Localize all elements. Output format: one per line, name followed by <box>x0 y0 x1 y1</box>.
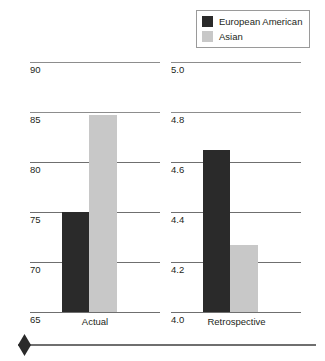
panel-retrospective: 5.0 4.8 4.6 4.4 4.2 4.0 Retrospective <box>171 62 301 312</box>
legend-item-asian: Asian <box>202 30 302 43</box>
legend-label-european-american: European American <box>219 16 302 27</box>
gridline-right-4-6 <box>171 162 301 163</box>
gridline-left-65 <box>30 312 160 313</box>
ytick-left-85: 85 <box>30 115 41 125</box>
gridline-left-85 <box>30 112 160 113</box>
plot-area-actual: 90 85 80 75 70 65 <box>30 62 160 312</box>
chart-figure: European American Asian 90 85 80 75 70 6… <box>0 0 325 361</box>
gridline-right-4-4 <box>171 212 301 213</box>
category-label-actual: Actual <box>50 316 140 327</box>
diamond-ornament-icon <box>18 334 31 356</box>
category-label-retrospective: Retrospective <box>179 316 294 327</box>
bar-actual-asian <box>89 115 117 312</box>
ytick-left-80: 80 <box>30 165 41 175</box>
ytick-left-70: 70 <box>30 265 41 275</box>
gridline-right-4-8 <box>171 112 301 113</box>
legend-item-european-american: European American <box>202 15 302 28</box>
plot-area-retrospective: 5.0 4.8 4.6 4.4 4.2 4.0 <box>171 62 301 312</box>
ytick-right-5-0: 5.0 <box>171 65 184 75</box>
bar-retrospective-european-american <box>203 150 230 312</box>
ytick-right-4-4: 4.4 <box>171 215 184 225</box>
gridline-right-5-0 <box>171 62 301 63</box>
ytick-right-4-2: 4.2 <box>171 265 184 275</box>
legend-swatch-asian <box>202 31 213 42</box>
ytick-right-4-6: 4.6 <box>171 165 184 175</box>
ytick-left-75: 75 <box>30 215 41 225</box>
panel-actual: 90 85 80 75 70 65 Actual <box>30 62 160 312</box>
chart-legend: European American Asian <box>196 10 310 48</box>
gridline-left-90 <box>30 62 160 63</box>
legend-swatch-european-american <box>202 16 213 27</box>
bar-retrospective-asian <box>230 245 258 312</box>
bar-actual-european-american <box>62 212 89 312</box>
footer-rule <box>18 344 316 346</box>
ytick-right-4-8: 4.8 <box>171 115 184 125</box>
gridline-right-4-0 <box>171 312 301 313</box>
legend-label-asian: Asian <box>219 31 243 42</box>
ytick-left-90: 90 <box>30 65 41 75</box>
ytick-left-65: 65 <box>30 315 41 325</box>
